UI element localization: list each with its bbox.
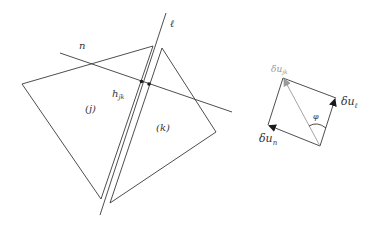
left-figure: n ℓ hjk (j) (k) — [22, 13, 232, 215]
triangle-j — [22, 46, 153, 199]
point-h-jk-left — [140, 80, 144, 84]
label-triangle-j: (j) — [85, 103, 96, 114]
line-l — [100, 13, 166, 215]
label-delta-u-jk-sub: jk — [280, 68, 288, 76]
point-h-jk-right — [147, 82, 151, 86]
label-n: n — [79, 40, 85, 51]
label-delta-u-l: δuℓ — [341, 95, 358, 110]
label-delta-u-jk-main: δu — [271, 64, 282, 74]
label-delta-u-n-sub: n — [273, 139, 278, 147]
right-figure: φ δujk δuℓ δun — [259, 64, 358, 147]
box-top-edge — [283, 78, 336, 98]
box-left-edge — [268, 78, 283, 125]
label-triangle-k: (k) — [156, 122, 170, 133]
vector-delta-u-l — [320, 99, 335, 146]
label-h-jk-sub: jk — [116, 93, 124, 101]
diagram-canvas: n ℓ hjk (j) (k) φ δujk δuℓ δun — [0, 0, 375, 225]
label-h-jk: hjk — [112, 88, 124, 101]
label-delta-u-n-main: δu — [259, 132, 273, 145]
label-delta-u-l-main: δu — [341, 95, 355, 108]
label-delta-u-l-sub: ℓ — [354, 102, 358, 110]
label-l: ℓ — [170, 18, 174, 29]
label-phi: φ — [313, 112, 319, 121]
label-delta-u-n: δun — [259, 132, 278, 147]
angle-arc-phi — [309, 124, 326, 128]
label-delta-u-jk: δujk — [271, 64, 288, 76]
